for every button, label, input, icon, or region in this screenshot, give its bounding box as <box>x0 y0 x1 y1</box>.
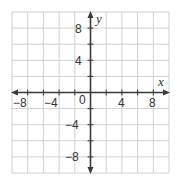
x-tick-label-8: 8 <box>149 96 156 110</box>
y-tick-label-neg4: −4 <box>65 118 79 132</box>
y-tick-label-4: 4 <box>75 54 82 68</box>
y-tick-label-neg8: −8 <box>65 150 79 164</box>
y-axis-label: y <box>94 11 102 26</box>
x-tick-label-neg8: −8 <box>13 96 27 110</box>
origin-label: 0 <box>79 93 86 107</box>
x-axis-label: x <box>157 74 164 89</box>
x-tick-label-neg4: −4 <box>44 96 58 110</box>
coordinate-plane: y x −8 −4 0 4 8 8 4 −4 −8 <box>0 0 179 183</box>
x-tick-label-4: 4 <box>118 96 125 110</box>
y-tick-label-8: 8 <box>75 22 82 36</box>
